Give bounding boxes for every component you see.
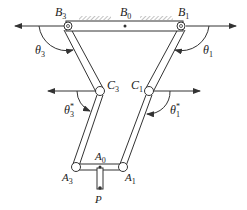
label-b3: B3 (55, 6, 66, 21)
joint-b3 (64, 22, 72, 30)
point-b0 (124, 25, 127, 28)
tool-stem (97, 168, 103, 189)
label-theta3-star: θ*3 (64, 103, 74, 119)
point-p (98, 186, 102, 190)
ground-hatch-left (79, 16, 111, 20)
label-theta1: θ1 (203, 44, 213, 59)
label-b1: B1 (178, 6, 189, 21)
label-a0: A0 (95, 151, 106, 165)
label-b0: B0 (120, 6, 131, 21)
label-theta3: θ3 (35, 44, 45, 59)
joint-b1 (177, 22, 185, 30)
label-c1: C1 (131, 79, 143, 94)
angle-arc-theta3-star (77, 91, 90, 111)
link-c1-a1 (120, 95, 152, 166)
joint-c3 (96, 87, 105, 96)
label-a3: A3 (62, 172, 73, 186)
link-b3-c3 (64, 29, 103, 92)
ground-hatch-right (140, 16, 173, 20)
linkage-drawing (0, 0, 247, 210)
label-p: P (95, 194, 102, 205)
link-b1-c1 (146, 29, 185, 92)
linkage-diagram: B3 B0 B1 θ3 θ1 C3 C1 θ*3 θ*1 A0 A3 A1 P (0, 0, 247, 210)
point-a0 (99, 166, 102, 169)
label-theta1-star: θ*1 (170, 103, 180, 119)
joint-a3 (72, 163, 81, 172)
joint-c1 (145, 87, 154, 96)
label-a1: A1 (125, 172, 136, 186)
label-c3: C3 (107, 79, 119, 94)
